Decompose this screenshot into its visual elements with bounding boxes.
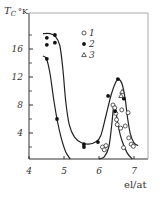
y-tick-label: 12 bbox=[12, 72, 24, 82]
x-tick-label: 4 bbox=[25, 166, 32, 176]
point-series-2 bbox=[55, 117, 59, 121]
y-axis-title-unit: °K bbox=[18, 7, 29, 16]
y-axis-title-sub: C bbox=[11, 10, 17, 18]
x-tick-label: 6 bbox=[96, 166, 102, 176]
legend: 123 bbox=[82, 28, 95, 60]
legend-label: 2 bbox=[88, 39, 95, 49]
y-axis-title: TC°K bbox=[4, 5, 29, 18]
point-series-1 bbox=[113, 106, 117, 110]
legend-marker-1 bbox=[82, 31, 86, 35]
point-series-2 bbox=[82, 142, 86, 146]
x-tick-label: 7 bbox=[131, 166, 137, 176]
point-series-2 bbox=[106, 94, 110, 98]
point-series-2 bbox=[45, 57, 49, 61]
legend-label: 1 bbox=[89, 28, 95, 38]
point-series-2 bbox=[53, 41, 57, 45]
x-axis-title: el/at bbox=[124, 179, 146, 190]
point-series-2 bbox=[96, 140, 100, 144]
point-series-1 bbox=[102, 148, 106, 152]
chart: 481216 4567 TC°K el/at 123 bbox=[0, 0, 164, 198]
point-series-1 bbox=[120, 108, 124, 112]
point-series-1 bbox=[126, 111, 130, 115]
y-tick-label: 8 bbox=[17, 100, 23, 110]
legend-marker-2 bbox=[82, 42, 86, 46]
legend-marker-3 bbox=[82, 53, 87, 57]
point-series-1 bbox=[115, 118, 119, 122]
point-series-1 bbox=[119, 126, 123, 130]
point-series-1 bbox=[122, 146, 126, 150]
point-series-1 bbox=[131, 144, 135, 148]
point-series-2 bbox=[113, 109, 117, 113]
point-series-1 bbox=[127, 136, 131, 140]
y-tick-label: 4 bbox=[16, 128, 23, 138]
point-series-1 bbox=[123, 124, 127, 128]
point-series-2 bbox=[53, 33, 57, 37]
point-series-3 bbox=[119, 94, 124, 98]
y-tick-label: 16 bbox=[12, 44, 24, 54]
x-tick-label: 5 bbox=[61, 166, 67, 176]
point-series-2 bbox=[45, 36, 49, 40]
point-series-2 bbox=[116, 77, 120, 81]
point-series-1 bbox=[115, 123, 119, 127]
point-series-1 bbox=[104, 144, 108, 148]
legend-label: 3 bbox=[89, 50, 95, 60]
point-series-2 bbox=[45, 43, 49, 47]
